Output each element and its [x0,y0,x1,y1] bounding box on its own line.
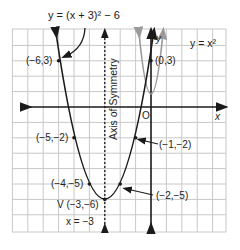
point-label-0-3: (0,3) [155,55,176,66]
parent-equation-label: y = x² [190,37,216,49]
vertex-label: V (−3,−6) [57,199,99,210]
point-label-m2-m5: (−2,−5) [156,190,188,201]
point-label-m1-m2: (−1,−2) [159,139,191,150]
shifted-equation-label: y = (x + 3)² − 6 [48,9,120,21]
equation-leader-arrow [66,28,85,56]
axis-of-symmetry-label: Axis of Symmetry [107,58,119,140]
parabola-graph: y = (x + 3)² − 6 y = x² y x O Axis of Sy… [0,0,240,250]
point-label-m4-m5: (−4,−5) [51,178,83,189]
point-label-m6-3: (−6,3) [26,55,52,66]
symmetry-equation-label: x = −3 [66,216,94,227]
leader-arrow-m1-m2 [141,140,158,144]
origin-label: O [142,110,150,121]
leader-arrow-m2-m5 [127,189,153,195]
x-axis-label: x [214,111,221,122]
y-axis-label: y [155,33,162,44]
point-label-m5-m2: (−5,−2) [36,132,68,143]
